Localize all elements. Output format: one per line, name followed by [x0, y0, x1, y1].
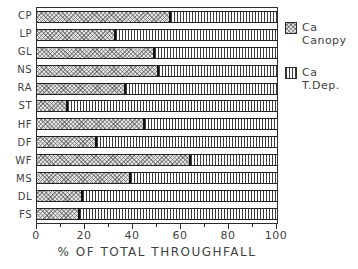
- x-minor-tick-30: [108, 224, 109, 227]
- legend-label-tdep: Ca T.Dep.: [302, 66, 340, 92]
- bar-segment-tdep: [68, 101, 277, 111]
- y-axis-label-ns: NS: [0, 64, 32, 76]
- bar-row-dl: [37, 190, 277, 202]
- bar-segment-canopy: [37, 173, 131, 183]
- legend-label-canopy: Ca Canopy: [302, 21, 347, 47]
- bar-segment-canopy: [37, 137, 97, 147]
- bar-segment-tdep: [131, 173, 277, 183]
- bar-segment-canopy: [37, 155, 191, 165]
- chart-canvas: CPLPGLNSRASTHFDFWFMSDLFS 020406080100 % …: [0, 0, 358, 269]
- bar-segment-canopy: [37, 12, 171, 22]
- x-minor-tick-70: [204, 224, 205, 227]
- legend: Ca Canopy Ca T.Dep.: [285, 21, 347, 111]
- y-axis-label-wf: WF: [0, 155, 32, 167]
- tdep-stripe-swatch-icon: [285, 67, 297, 79]
- y-axis-labels: CPLPGLNSRASTHFDFWFMSDLFS: [0, 7, 32, 224]
- x-tick-label-0: 0: [32, 229, 40, 242]
- bar-segment-tdep: [145, 119, 277, 129]
- bar-segment-canopy: [37, 209, 80, 219]
- legend-label-tdep-line1: Ca: [302, 66, 317, 79]
- plot-area: [36, 7, 278, 224]
- bar-row-ns: [37, 65, 277, 77]
- legend-label-canopy-line1: Ca: [302, 21, 317, 34]
- bar-segment-tdep: [116, 30, 277, 40]
- bar-row-lp: [37, 29, 277, 41]
- y-axis-label-dl: DL: [0, 191, 32, 203]
- bar-segment-canopy: [37, 119, 145, 129]
- x-minor-tick-50: [156, 224, 157, 227]
- bar-segment-canopy: [37, 66, 159, 76]
- y-axis-label-lp: LP: [0, 28, 32, 40]
- x-minor-tick-10: [60, 224, 61, 227]
- legend-entry-canopy: Ca Canopy: [285, 21, 347, 47]
- canopy-hatch-swatch-icon: [285, 22, 297, 34]
- y-axis-label-ra: RA: [0, 82, 32, 94]
- x-tick-label-40: 40: [125, 229, 140, 242]
- y-axis-label-ms: MS: [0, 173, 32, 185]
- bar-segment-tdep: [191, 155, 277, 165]
- bar-row-ms: [37, 172, 277, 184]
- bar-row-fs: [37, 208, 277, 220]
- y-axis-label-hf: HF: [0, 119, 32, 131]
- bar-rows: [37, 8, 277, 223]
- bar-row-cp: [37, 11, 277, 23]
- x-tick-label-20: 20: [77, 229, 92, 242]
- bar-segment-tdep: [80, 209, 277, 219]
- y-axis-label-cp: CP: [0, 10, 32, 22]
- y-axis-label-st: ST: [0, 100, 32, 112]
- bar-row-st: [37, 100, 277, 112]
- bar-row-wf: [37, 154, 277, 166]
- legend-label-tdep-line2: T.Dep.: [302, 79, 340, 92]
- bar-row-df: [37, 136, 277, 148]
- bar-segment-tdep: [171, 12, 277, 22]
- bar-segment-tdep: [126, 84, 277, 94]
- y-axis-label-df: DF: [0, 137, 32, 149]
- bar-row-gl: [37, 47, 277, 59]
- x-minor-tick-90: [252, 224, 253, 227]
- bar-segment-tdep: [159, 66, 277, 76]
- bar-segment-canopy: [37, 48, 155, 58]
- x-axis-tick-labels: 020406080100: [36, 229, 278, 241]
- bar-segment-canopy: [37, 84, 126, 94]
- x-tick-label-60: 60: [173, 229, 188, 242]
- bar-segment-tdep: [83, 191, 277, 201]
- y-axis-label-fs: FS: [0, 209, 32, 221]
- bar-row-ra: [37, 83, 277, 95]
- bar-segment-canopy: [37, 30, 116, 40]
- legend-label-canopy-line2: Canopy: [302, 34, 347, 47]
- bar-segment-tdep: [97, 137, 277, 147]
- x-axis-title: % OF TOTAL THROUGHFALL: [36, 245, 278, 259]
- bar-segment-canopy: [37, 191, 83, 201]
- bar-segment-tdep: [155, 48, 277, 58]
- bar-row-hf: [37, 118, 277, 130]
- legend-entry-tdep: Ca T.Dep.: [285, 66, 347, 92]
- x-tick-label-100: 100: [265, 229, 288, 242]
- bar-segment-canopy: [37, 101, 68, 111]
- y-axis-label-gl: GL: [0, 46, 32, 58]
- x-tick-label-80: 80: [221, 229, 236, 242]
